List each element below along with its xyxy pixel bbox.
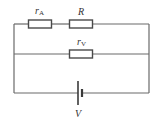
battery-label: V [75, 108, 83, 119]
resistor-rV-body [70, 50, 93, 58]
resistor-rA-label: rA [35, 5, 44, 17]
resistor-rA-body [29, 20, 52, 28]
resistor-rA: rA [29, 5, 52, 28]
resistor-R-body [70, 20, 93, 28]
resistor-rV-label: rV [77, 36, 86, 48]
circuit-diagram: rA R rV V [0, 0, 161, 127]
resistor-R-label: R [77, 6, 84, 17]
resistor-R: R [70, 6, 93, 28]
battery: V [75, 81, 83, 119]
resistor-rV: rV [70, 36, 93, 58]
